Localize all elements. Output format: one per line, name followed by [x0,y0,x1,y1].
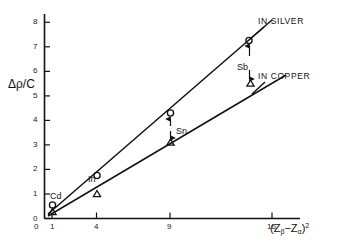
data-point-triangle [247,80,254,86]
scatter-plot [0,0,342,247]
point-label-in: In [88,175,96,184]
x-tick-label-4: 4 [94,223,98,231]
data-point-circle [167,110,173,116]
x-tick-label-9: 9 [167,223,171,231]
fit-lines [48,20,286,216]
series-label-in-copper: IN COPPER [258,72,310,81]
x-tick-label-1: 1 [50,223,54,231]
x-axis-title-z2: Z [291,222,298,234]
y-tick-label-6: 6 [33,67,37,75]
y-tick-label-4: 4 [33,116,37,124]
chart-figure: 0 1 2 3 4 5 6 7 8 0 1 4 9 16 Δρ/C (Zβ−Zα… [0,0,342,247]
leader-silver [250,27,264,39]
series-copper-points [49,80,254,215]
y-tick-label-8: 8 [33,18,37,26]
y-tick-label-7: 7 [33,43,37,51]
y-axis-title: Δρ/C [8,78,35,90]
y-tick-label-2: 2 [33,165,37,173]
series-label-in-silver: IN SILVER [258,17,304,26]
point-label-cd: Cd [50,192,62,201]
x-axis-title-exponent: 2 [305,222,309,229]
data-point-triangle [93,191,100,197]
x-axis-title-open: (Z [270,222,280,234]
y-tick-label-5: 5 [33,92,37,100]
y-tick-label-3: 3 [33,141,37,149]
data-point-circle [49,202,55,208]
x-axis-ticks [52,213,272,219]
y-tick-label-1: 1 [33,190,37,198]
point-label-sn: Sn [176,127,187,136]
x-tick-label-0: 0 [34,223,38,231]
x-axis-title: (Zβ−Zα)2 [270,222,309,235]
point-label-sb: Sb [237,63,248,72]
fit-line-silver [48,20,272,214]
y-axis-ticks [45,22,51,218]
